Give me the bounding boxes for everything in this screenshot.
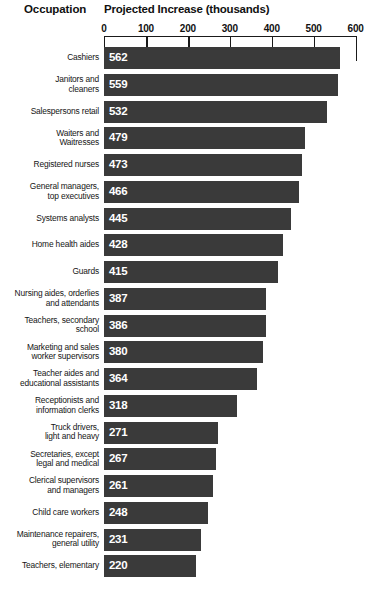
category-label: Cashiers [7,53,99,63]
category-label: Home health aides [7,240,99,250]
bar-row: Maintenance repairers,general utility231 [0,529,369,556]
bar: 271 [104,422,218,444]
bar-value-label: 415 [109,266,127,278]
bar: 473 [104,154,302,176]
bar-row: Teacher aides andeducational assistants3… [0,368,369,395]
bar-value-label: 562 [109,52,127,64]
category-label: Truck drivers,light and heavy [7,423,99,442]
category-label: Clerical supervisorsand managers [7,476,99,495]
category-label: Maintenance repairers,general utility [7,530,99,549]
bar: 428 [104,234,283,256]
bar-value-label: 387 [109,293,127,305]
category-label: Salespersons retail [7,107,99,117]
bar: 248 [104,502,208,524]
bar-row: Nursing aides, orderliesand attendants38… [0,288,369,315]
bar-value-label: 248 [109,507,127,519]
bar-row: Home health aides428 [0,234,369,261]
bar-value-label: 532 [109,106,127,118]
bar-row: Salespersons retail532 [0,101,369,128]
bar-row: Cashiers562 [0,47,369,74]
bar: 445 [104,208,291,230]
bar-value-label: 466 [109,186,127,198]
category-label: Secretaries, exceptlegal and medical [7,450,99,469]
x-axis-tick-label: 200 [180,23,196,34]
x-axis-tick-label: 600 [348,23,364,34]
x-axis-tick-label: 100 [138,23,154,34]
bar-value-label: 473 [109,159,127,171]
bar-row: Guards415 [0,261,369,288]
bar-row: Marketing and salesworker supervisors380 [0,341,369,368]
bar-value-label: 267 [109,454,127,466]
x-axis-tick-label: 400 [264,23,280,34]
bar-value-label: 261 [109,480,127,492]
bar-row: Registered nurses473 [0,154,369,181]
bar-row: Child care workers248 [0,502,369,529]
bar: 562 [104,47,340,69]
bar-value-label: 559 [109,79,127,91]
bar: 364 [104,368,257,390]
bar-value-label: 231 [109,534,127,546]
category-label: Receptionists andinformation clerks [7,396,99,415]
bar-value-label: 380 [109,347,127,359]
bar-row: Janitors andcleaners559 [0,74,369,101]
bar-value-label: 428 [109,240,127,252]
bar-row: General managers,top executives466 [0,181,369,208]
bar-value-label: 479 [109,133,127,145]
bar: 415 [104,261,278,283]
bar-row: Secretaries, exceptlegal and medical267 [0,448,369,475]
bar: 267 [104,448,216,470]
bar-chart: Occupation Projected Increase (thousands… [0,0,369,589]
bar: 466 [104,181,299,203]
bar-row: Receptionists andinformation clerks318 [0,395,369,422]
bar: 318 [104,395,237,417]
bar-row: Waiters andWaitresses479 [0,127,369,154]
bar: 380 [104,341,263,363]
category-label: Child care workers [7,508,99,518]
category-label: Teacher aides andeducational assistants [7,369,99,388]
bar-row: Truck drivers,light and heavy271 [0,422,369,449]
bar: 220 [104,555,196,577]
bar-value-label: 364 [109,373,127,385]
bar: 387 [104,288,266,310]
bar-row: Teachers, secondaryschool386 [0,315,369,342]
category-label: Waiters andWaitresses [7,129,99,148]
bar: 479 [104,127,305,149]
bar: 261 [104,475,213,497]
bar-value-label: 220 [109,561,127,573]
bar-value-label: 445 [109,213,127,225]
bar-value-label: 386 [109,320,127,332]
plot-area: Cashiers562Janitors andcleaners559Salesp… [0,47,369,587]
bar-value-label: 318 [109,400,127,412]
category-label: Teachers, elementary [7,561,99,571]
bar-row: Systems analysts445 [0,208,369,235]
x-axis-tick-label: 0 [101,23,106,34]
bar-row: Clerical supervisorsand managers261 [0,475,369,502]
bar: 386 [104,315,266,337]
chart-header: Occupation Projected Increase (thousands… [0,0,369,22]
category-label: Marketing and salesworker supervisors [7,343,99,362]
occupation-column-header: Occupation [24,3,86,15]
x-axis-tick-label: 300 [222,23,238,34]
category-label: Janitors andcleaners [7,75,99,94]
category-label: General managers,top executives [7,182,99,201]
category-label: Registered nurses [7,160,99,170]
category-label: Teachers, secondaryschool [7,316,99,335]
value-column-header: Projected Increase (thousands) [104,3,269,15]
category-label: Systems analysts [7,214,99,224]
x-axis-tick-labels: 0100200300400500600 [0,23,369,36]
category-label: Nursing aides, orderliesand attendants [7,289,99,308]
bar-value-label: 271 [109,427,127,439]
bar: 559 [104,74,338,96]
bar: 231 [104,529,201,551]
x-axis-band [104,36,357,47]
bar-row: Teachers, elementary220 [0,555,369,582]
x-axis-tick-label: 500 [306,23,322,34]
category-label: Guards [7,267,99,277]
bar: 532 [104,101,327,123]
